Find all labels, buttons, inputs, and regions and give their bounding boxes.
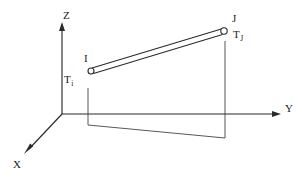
temperature-label-i-base: T [64, 73, 71, 85]
diagram-canvas [0, 0, 302, 178]
x-axis-label: X [13, 159, 21, 170]
temperature-label-j-base: T [233, 28, 240, 40]
node-label-j: J [232, 13, 236, 24]
beam-member-lower-edge [94, 35, 223, 74]
temperature-label-i: Ti [64, 74, 73, 85]
node-marker-j [221, 28, 227, 34]
y-axis-label: Y [285, 103, 293, 114]
y-axis-arrowhead [272, 111, 281, 117]
z-axis-arrowhead [59, 22, 65, 31]
temperature-label-j-subscript: J [240, 34, 243, 43]
x-axis-arrowhead [24, 143, 33, 154]
beam-member-group [92, 29, 223, 74]
beam-member-upper-edge [92, 29, 223, 69]
node-marker-i [88, 68, 94, 74]
temperature-label-j: TJ [233, 29, 243, 40]
node-label-i: I [84, 53, 88, 64]
projection-base-line [88, 125, 225, 138]
beam-element-diagram: Z Y X I J Ti TJ [0, 0, 302, 178]
projection-group [88, 41, 225, 138]
x-axis-line [29, 114, 62, 149]
z-axis-label: Z [63, 10, 70, 21]
